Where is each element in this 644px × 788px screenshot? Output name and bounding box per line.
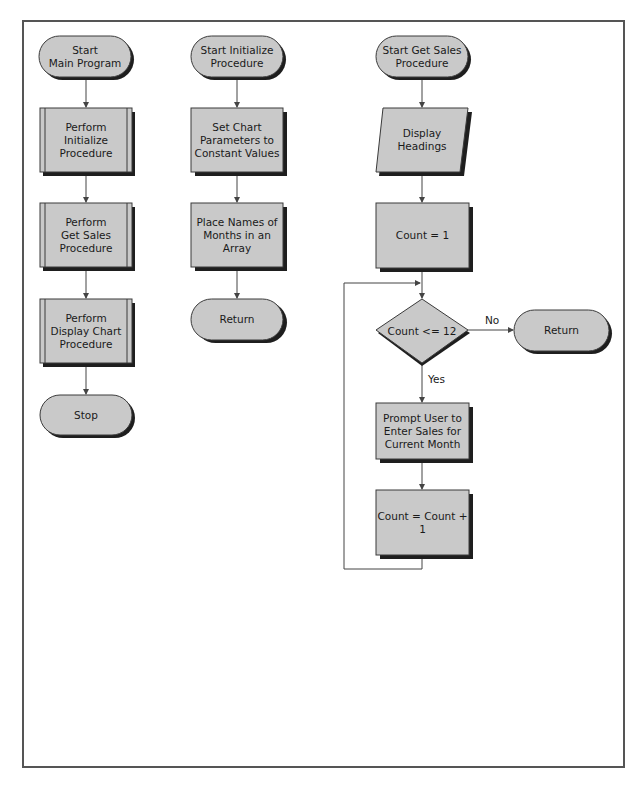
flowchart-canvas [0,0,644,788]
main-program-flow [39,36,135,438]
edge-label-yes: Yes [428,373,445,385]
initialize-procedure-flow [191,36,287,343]
get-sales-procedure-flow [344,36,612,569]
edge-label-no: No [485,314,499,326]
